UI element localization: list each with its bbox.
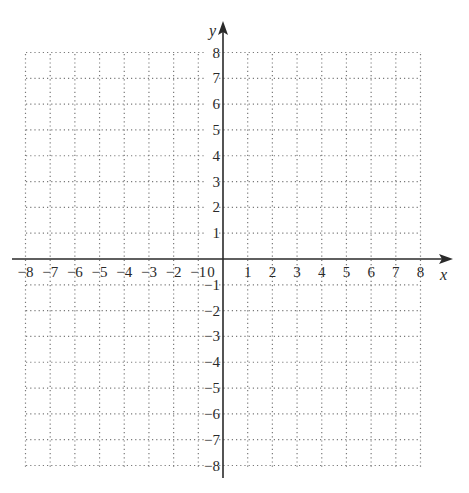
x-tick-label: −3 [141,264,157,280]
coordinate-plane: −8−7−6−5−4−3−2−11234567887654321−1−2−3−4… [0,0,469,493]
x-tick-label: 8 [417,264,425,280]
x-tick-label: −5 [92,264,108,280]
y-tick-label: −8 [204,458,220,474]
y-tick-label: −4 [204,354,220,370]
x-tick-label: 6 [367,264,375,280]
x-tick-label: −7 [42,264,58,280]
x-tick-label: −8 [18,264,34,280]
y-tick-label: 4 [213,148,221,164]
y-tick-label: 5 [213,122,221,138]
x-tick-label: −2 [166,264,182,280]
axes [12,21,453,478]
x-tick-label: 4 [318,264,326,280]
y-tick-label: 7 [213,70,221,86]
y-tick-label: −7 [204,432,220,448]
y-tick-label: 1 [213,225,221,241]
x-tick-label: 1 [244,264,252,280]
x-tick-label: −4 [116,264,132,280]
x-tick-label: 2 [269,264,277,280]
y-tick-label: 2 [213,199,221,215]
x-tick-label: 3 [293,264,301,280]
y-tick-label: −3 [204,328,220,344]
x-tick-label: −6 [67,264,83,280]
y-axis-label: y [207,22,217,40]
origin-label: 0 [207,264,215,280]
y-tick-label: −2 [204,303,220,319]
y-tick-label: 6 [213,96,221,112]
y-tick-label: 8 [213,45,221,61]
x-tick-label: 7 [392,264,400,280]
y-tick-label: −5 [204,380,220,396]
y-tick-label: −6 [204,406,220,422]
x-axis-label: x [439,266,447,283]
x-tick-label: 5 [343,264,351,280]
y-tick-label: 3 [213,174,221,190]
